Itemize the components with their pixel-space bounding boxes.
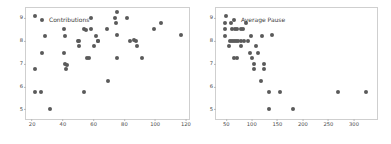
data-point <box>33 90 37 94</box>
chart-panel-average-pause: Average Pause 5010015020025030056789 <box>196 0 391 144</box>
data-point <box>87 56 91 60</box>
y-axis-tick-label: 8 <box>20 39 26 44</box>
data-point <box>77 39 81 43</box>
data-point <box>262 67 266 71</box>
data-point <box>48 107 52 111</box>
axes-contributions: Contributions 2040608010012056789 <box>25 7 190 120</box>
data-point <box>159 21 163 25</box>
plot-area-contributions <box>26 8 189 119</box>
data-point <box>114 21 118 25</box>
data-point <box>33 14 37 18</box>
data-point <box>62 51 66 55</box>
x-axis-tick-label: 100 <box>150 119 160 127</box>
data-point <box>241 27 245 31</box>
data-point <box>267 90 271 94</box>
data-point <box>135 44 139 48</box>
y-axis-tick-label: 5 <box>20 107 26 112</box>
x-axis-tick-label: 120 <box>181 119 191 127</box>
data-point <box>89 27 93 31</box>
data-point <box>113 16 117 20</box>
data-point <box>262 62 266 66</box>
x-axis-tick-label: 150 <box>272 119 282 127</box>
data-point <box>256 51 260 55</box>
data-point <box>246 39 250 43</box>
data-point <box>227 44 231 48</box>
data-point <box>250 56 254 60</box>
x-axis-tick-label: 250 <box>323 119 333 127</box>
chart-panel-contributions: Contributions 2040608010012056789 <box>0 0 196 144</box>
scatter-figure: Contributions 2040608010012056789 Averag… <box>0 0 391 144</box>
data-point <box>64 67 68 71</box>
data-point <box>254 44 258 48</box>
legend-marker-icon <box>40 18 44 22</box>
data-point <box>43 34 47 38</box>
data-point <box>278 90 282 94</box>
legend-label: Average Pause <box>241 17 285 23</box>
data-point <box>63 34 67 38</box>
y-axis-tick-label: 5 <box>210 107 216 112</box>
y-axis-tick-label: 8 <box>210 39 216 44</box>
data-point <box>106 79 110 83</box>
data-point <box>364 90 368 94</box>
data-point <box>179 33 183 37</box>
data-point <box>223 21 227 25</box>
y-axis-tick-label: 7 <box>210 61 216 66</box>
data-point <box>84 28 88 32</box>
y-axis-tick-label: 6 <box>210 84 216 89</box>
data-point <box>239 44 243 48</box>
data-point <box>94 34 98 38</box>
data-point <box>65 63 69 67</box>
data-point <box>260 34 264 38</box>
data-point <box>77 44 81 48</box>
data-point <box>92 44 96 48</box>
data-point <box>96 39 100 43</box>
data-point <box>39 90 43 94</box>
data-point <box>291 107 295 111</box>
data-point <box>259 79 263 83</box>
data-point <box>336 90 340 94</box>
data-point <box>115 10 119 14</box>
legend-contributions: Contributions <box>40 17 89 23</box>
data-point <box>252 67 256 71</box>
data-point <box>267 107 271 111</box>
plot-area-average-pause <box>216 8 377 119</box>
data-point <box>82 90 86 94</box>
data-point <box>223 34 227 38</box>
data-point <box>40 51 44 55</box>
data-point <box>224 14 228 18</box>
x-axis-tick-label: 100 <box>247 119 257 127</box>
data-point <box>105 27 109 31</box>
x-axis-tick-label: 40 <box>60 119 67 127</box>
legend-average-pause: Average Pause <box>232 17 285 23</box>
y-axis-tick-label: 9 <box>210 16 216 21</box>
x-axis-tick-label: 80 <box>121 119 128 127</box>
x-axis-tick-label: 50 <box>223 119 230 127</box>
data-point <box>134 39 138 43</box>
x-axis-tick-label: 300 <box>349 119 359 127</box>
data-point <box>248 51 252 55</box>
data-point <box>223 27 227 31</box>
x-axis-tick-label: 200 <box>298 119 308 127</box>
data-point <box>252 62 256 66</box>
legend-label: Contributions <box>49 17 89 23</box>
data-point <box>115 56 119 60</box>
legend-marker-icon <box>232 18 236 22</box>
data-point <box>140 56 144 60</box>
data-point <box>125 16 129 20</box>
data-point <box>235 56 239 60</box>
data-point <box>33 67 37 71</box>
data-point <box>115 33 119 37</box>
axes-average-pause: Average Pause 5010015020025030056789 <box>215 7 378 120</box>
data-point <box>270 33 274 37</box>
y-axis-tick-label: 7 <box>20 61 26 66</box>
data-point <box>152 27 156 31</box>
data-point <box>62 27 66 31</box>
y-axis-tick-label: 6 <box>20 84 26 89</box>
data-point <box>249 34 253 38</box>
x-axis-tick-label: 60 <box>90 119 97 127</box>
x-axis-tick-label: 20 <box>29 119 36 127</box>
y-axis-tick-label: 9 <box>20 16 26 21</box>
